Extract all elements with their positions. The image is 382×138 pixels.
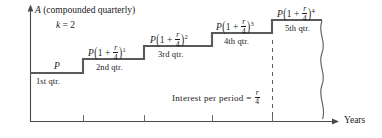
right-paren-icon: ) xyxy=(181,34,184,49)
right-paren-icon: ) xyxy=(308,8,311,23)
x-axis-ticks xyxy=(84,115,273,122)
step-3-base-one: 1 xyxy=(160,35,165,45)
rate-fraction: r4 xyxy=(241,18,246,35)
step-4-plus-sign: + xyxy=(233,22,238,32)
left-paren-icon: ( xyxy=(94,47,97,62)
step-5-plus-sign: + xyxy=(294,9,299,19)
rate-fraction: r4 xyxy=(302,5,307,22)
step-5-amount-label: P(1 + r4)4 xyxy=(277,5,315,22)
step-3-amount-prefix: P xyxy=(150,35,156,45)
interest-rate-denominator: 4 xyxy=(255,98,260,106)
rate-fraction: r4 xyxy=(113,44,118,61)
y-axis-label: A (compounded quarterly) xyxy=(35,6,135,16)
left-paren-icon: ( xyxy=(156,34,159,49)
step-3-plus-sign: + xyxy=(167,35,172,45)
rate-fraction: r4 xyxy=(175,31,180,48)
right-paren-icon: ) xyxy=(119,47,122,62)
left-paren-icon: ( xyxy=(283,8,286,23)
rate-denominator: 4 xyxy=(302,14,307,22)
step-2-exponent: 1 xyxy=(123,46,126,53)
step-5-exponent: 4 xyxy=(312,7,315,14)
step-2-base-one: 1 xyxy=(98,48,103,58)
step-4-amount-prefix: P xyxy=(216,22,222,32)
step-3-period-label: 3rd qtr. xyxy=(158,50,183,59)
step-4-base-one: 1 xyxy=(226,22,231,32)
y-axis-arrowhead xyxy=(28,5,34,12)
step-1-amount-prefix: P xyxy=(54,61,60,71)
interest-per-period-text: Interest per period = xyxy=(172,93,252,103)
step-3-exponent: 2 xyxy=(185,33,188,40)
step-2-plus-sign: + xyxy=(105,48,110,58)
step-3-amount-label: P(1 + r4)2 xyxy=(150,31,188,48)
rate-numerator: r xyxy=(113,44,118,53)
k-value-label: k = 2 xyxy=(56,21,75,31)
step-5-period-label: 5th qtr. xyxy=(285,24,310,33)
interest-rate-fraction: r4 xyxy=(255,89,260,106)
step-2-amount-label: P(1 + r4)1 xyxy=(88,44,126,61)
wavy-break-line xyxy=(321,21,324,119)
rate-denominator: 4 xyxy=(175,40,180,48)
step-1-period-label: 1st qtr. xyxy=(36,77,60,86)
step-4-amount-label: P(1 + r4)3 xyxy=(216,18,254,35)
rate-numerator: r xyxy=(175,31,180,40)
x-axis-arrowhead xyxy=(332,119,339,125)
step-5-amount-prefix: P xyxy=(277,9,283,19)
rate-denominator: 4 xyxy=(113,53,118,61)
interest-per-period-annotation: Interest per period = r4 xyxy=(172,89,260,106)
rate-numerator: r xyxy=(302,5,307,14)
rate-numerator: r xyxy=(241,18,246,27)
y-axis-label-text: (compounded quarterly) xyxy=(41,5,135,15)
left-paren-icon: ( xyxy=(222,21,225,36)
step-2-period-label: 2nd qtr. xyxy=(96,63,123,72)
step-5-base-one: 1 xyxy=(287,9,292,19)
k-equals-value: = 2 xyxy=(60,20,75,30)
step-2-amount-prefix: P xyxy=(88,48,94,58)
step-4-exponent: 3 xyxy=(251,20,254,27)
step-4-period-label: 4th qtr. xyxy=(224,37,249,46)
right-paren-icon: ) xyxy=(247,21,250,36)
rate-denominator: 4 xyxy=(241,27,246,35)
compound-interest-step-diagram: A (compounded quarterly) k = 2 P 1st qtr… xyxy=(0,0,382,138)
step-1-amount-label: P xyxy=(54,62,60,72)
x-axis-label: Years xyxy=(344,116,365,126)
